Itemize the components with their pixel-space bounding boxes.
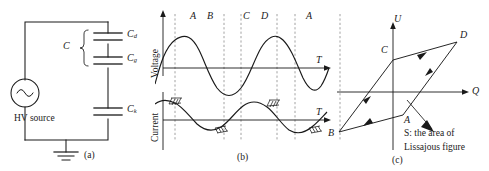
panel-b-waveforms [155, 0, 345, 171]
wire-top-left [25, 22, 108, 80]
lissajous-annotation-line1: S: the area of [404, 128, 454, 139]
panel-a-caption: (a) [84, 150, 95, 160]
marker-label-c: C [243, 11, 250, 21]
marker-label-a1: A [190, 11, 196, 21]
lissajous-vertex-a: A [404, 115, 410, 125]
marker-label-b: B [207, 11, 213, 21]
panel-c-caption: (c) [392, 155, 403, 165]
capacitor-cg-label: Cg [127, 53, 137, 64]
voltage-waveform-curve [155, 36, 329, 95]
lissajous-vertex-c: C [381, 45, 388, 55]
capacitor-group-brace [80, 30, 88, 66]
voltage-value-axis-arrow [160, 10, 166, 17]
current-axis-arrow [324, 117, 331, 123]
pulse-burst-3 [267, 100, 280, 107]
hv-source-label: HV source [14, 113, 55, 124]
capacitor-group-label: C [63, 41, 70, 51]
current-axis-label: Current [150, 113, 160, 142]
loop-edge-b-c [339, 60, 393, 132]
arrow-d-to-a [425, 68, 433, 76]
lissajous-vertex-b: B [328, 128, 334, 138]
lissajous-vertex-d: D [460, 30, 467, 40]
current-time-axis-label: T [316, 107, 322, 117]
capacitor-ck-label: Ck [127, 104, 137, 115]
u-axis-label: U [394, 14, 401, 24]
lissajous-annotation-line2: Lissajous figure [404, 142, 465, 153]
voltage-time-axis-label: T [316, 55, 322, 65]
voltage-axis-label: Voltage [150, 49, 160, 78]
loop-edge-d-a [403, 42, 457, 115]
ac-sine-glyph [17, 90, 33, 97]
figure-partial-discharge: C Cd Cg Ck HV source (a) [0, 0, 489, 171]
loop-edge-c-d [393, 42, 457, 60]
marker-lines [175, 14, 340, 140]
q-axis-label: Q [472, 86, 479, 96]
voltage-axis-arrow [324, 65, 331, 71]
panel-a-circuit [0, 0, 150, 171]
marker-label-d: D [261, 11, 268, 21]
q-axis-arrow [462, 89, 469, 95]
marker-label-a2: A [306, 11, 312, 21]
discharge-pulse-bursts [169, 98, 322, 133]
arrow-b-to-c [363, 96, 371, 104]
panel-b-caption: (b) [237, 152, 248, 162]
capacitor-cd-label: Cd [127, 29, 137, 40]
arrow-a-to-b [363, 118, 373, 126]
